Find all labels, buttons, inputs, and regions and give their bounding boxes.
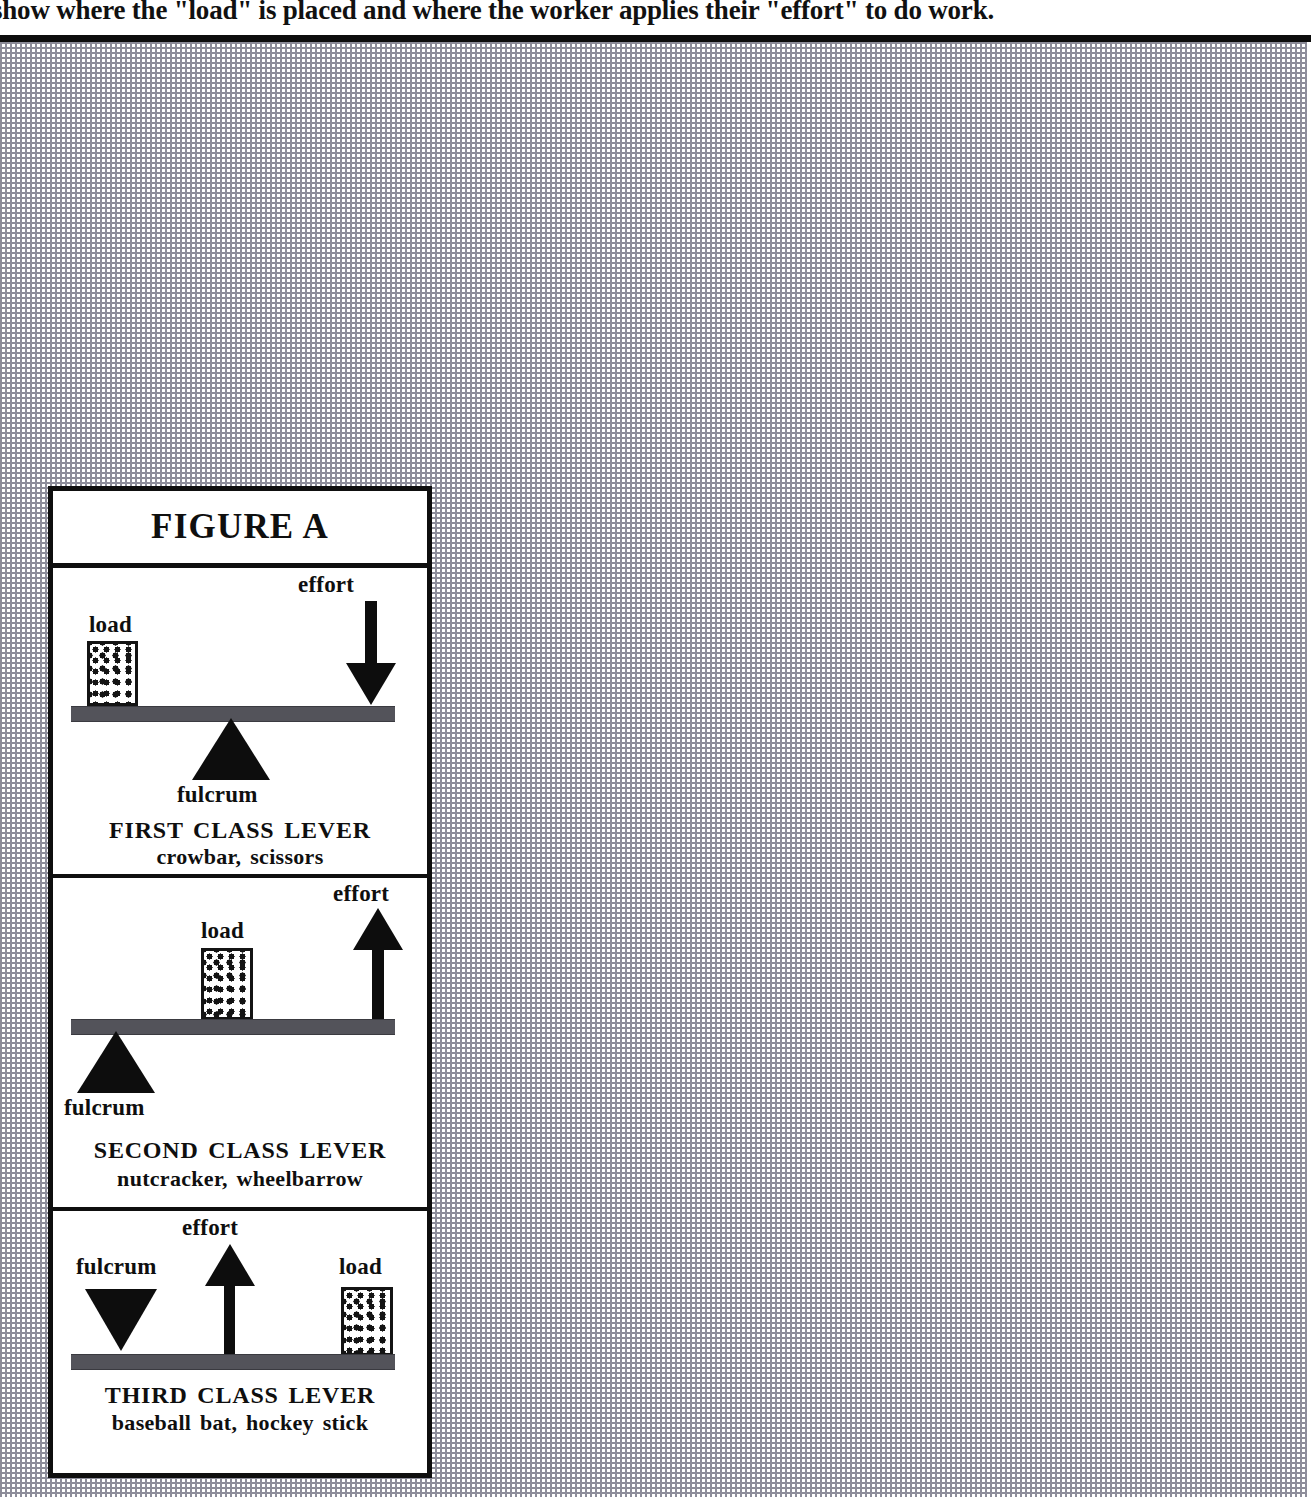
effort-arrow-head-second	[353, 908, 403, 950]
fulcrum-label-first: fulcrum	[177, 782, 258, 808]
panel-third-class-lever: effort fulcrum load THIRD CLASS LEVER ba…	[53, 1211, 427, 1473]
effort-arrow-shaft-first	[365, 601, 377, 667]
load-block-first	[87, 641, 138, 706]
worksheet-page: show where the "load" is placed and wher…	[0, 0, 1311, 1497]
fulcrum-label-third: fulcrum	[76, 1254, 157, 1280]
load-label-second: load	[201, 918, 244, 944]
load-block-second	[201, 948, 253, 1020]
lever-beam-third	[71, 1354, 395, 1370]
fulcrum-triangle-third	[85, 1289, 157, 1351]
fulcrum-label-second: fulcrum	[64, 1095, 145, 1121]
panel-second-class-lever: effort load fulcrum SECOND CLASS LEVER n…	[53, 878, 427, 1211]
caption-second-class-lever: SECOND CLASS LEVER	[53, 1136, 427, 1164]
caption-first-class-lever: FIRST CLASS LEVER	[53, 816, 427, 844]
effort-arrow-shaft-third	[224, 1284, 235, 1356]
header-divider-rule	[0, 35, 1311, 42]
page-right-margin	[1307, 42, 1311, 1497]
panel-first-class-lever: effort load fulcrum FIRST CLASS LEVER cr…	[53, 568, 427, 878]
fulcrum-triangle-second	[77, 1031, 155, 1093]
fulcrum-triangle-first	[192, 718, 270, 780]
effort-label-first: effort	[298, 572, 354, 598]
figure-a-title-bar: FIGURE A	[53, 491, 427, 568]
effort-arrow-head-third	[205, 1244, 255, 1286]
caption-sub-first-class-lever: crowbar, scissors	[53, 843, 427, 870]
caption-sub-second-class-lever: nutcracker, wheelbarrow	[53, 1165, 427, 1192]
figure-a-box: FIGURE A effort load fulcrum FIRST CLASS…	[48, 486, 432, 1478]
load-block-third	[341, 1287, 393, 1356]
load-label-first: load	[89, 612, 132, 638]
figure-a-title: FIGURE A	[151, 507, 329, 547]
load-label-third: load	[339, 1254, 382, 1280]
effort-label-third: effort	[182, 1215, 238, 1241]
effort-arrow-shaft-second	[372, 948, 384, 1020]
caption-third-class-lever: THIRD CLASS LEVER	[53, 1381, 427, 1409]
instruction-text: show where the "load" is placed and wher…	[0, 0, 1311, 27]
effort-arrow-head-first	[346, 663, 396, 705]
caption-sub-third-class-lever: baseball bat, hockey stick	[53, 1409, 427, 1436]
effort-label-second: effort	[333, 881, 389, 907]
